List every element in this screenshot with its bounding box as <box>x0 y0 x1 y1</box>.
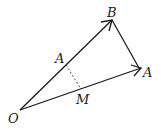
label-M: M <box>75 92 90 107</box>
label-A-right: A <box>142 65 152 80</box>
label-O: O <box>8 111 19 126</box>
segment-BA <box>112 20 139 68</box>
label-A-on-OB: A <box>54 51 64 66</box>
vector-diagram: B A A M O <box>0 0 161 131</box>
label-B: B <box>106 5 117 20</box>
dashed-segment-AM <box>66 65 81 89</box>
